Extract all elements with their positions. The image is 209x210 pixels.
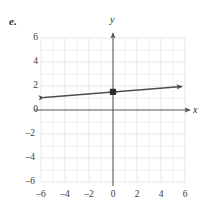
x-tick-label-4: 4 [153, 190, 169, 200]
y-tick-label-neg2: –2 [19, 129, 35, 139]
x-tick-label-2: 2 [129, 190, 145, 200]
x-tick-label-neg4: –4 [57, 190, 73, 200]
x-tick-label-6: 6 [177, 190, 193, 200]
x-tick-label-neg6: –6 [33, 190, 49, 200]
y-tick-label-4: 4 [22, 57, 38, 67]
y-tick-label-6: 6 [22, 33, 38, 43]
x-tick-label-0: 0 [105, 190, 121, 200]
x-tick-label-neg2: –2 [81, 190, 97, 200]
y-tick-label-neg6: –6 [19, 177, 35, 187]
x-axis-label: x [193, 105, 197, 115]
y-tick-label-neg4: –4 [19, 153, 35, 163]
graph-figure: e. [0, 0, 209, 210]
y-tick-label-2: 2 [22, 81, 38, 91]
y-intercept-point [110, 89, 116, 95]
y-axis-label: y [110, 15, 114, 25]
y-tick-label-0: 0 [22, 105, 38, 115]
